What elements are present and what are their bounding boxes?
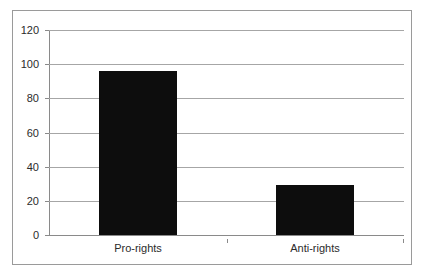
y-tick-mark-20 — [45, 201, 49, 202]
x-tick-label-1: Anti-rights — [290, 243, 340, 254]
y-tick-label-120: 120 — [21, 25, 39, 36]
y-tick-label-0: 0 — [33, 230, 39, 241]
y-tick-label-20: 20 — [27, 196, 39, 207]
plot-area — [49, 30, 404, 235]
y-tick-mark-80 — [45, 98, 49, 99]
y-tick-mark-100 — [45, 64, 49, 65]
y-tick-label-100: 100 — [21, 59, 39, 70]
y-tick-mark-60 — [45, 133, 49, 134]
bar-pro-rights — [99, 71, 177, 235]
x-tick-label-0: Pro-rights — [114, 243, 162, 254]
y-tick-label-80: 80 — [27, 93, 39, 104]
y-axis-tick-labels: 020406080100120 — [11, 30, 43, 235]
gridline-100 — [49, 64, 404, 65]
y-tick-mark-0 — [45, 235, 49, 236]
y-tick-label-60: 60 — [27, 128, 39, 139]
gridline-0 — [49, 235, 404, 236]
x-axis-tick-labels: Pro-rightsAnti-rights — [49, 239, 404, 261]
bar-anti-rights — [276, 185, 354, 235]
x-axis-mid-tick — [227, 239, 228, 243]
y-tick-label-40: 40 — [27, 162, 39, 173]
x-axis-end-tick — [403, 239, 404, 243]
y-tick-mark-40 — [45, 167, 49, 168]
y-tick-mark-120 — [45, 30, 49, 31]
chart-figure: 020406080100120 Pro-rightsAnti-rights — [12, 10, 412, 265]
gridline-120 — [49, 30, 404, 31]
